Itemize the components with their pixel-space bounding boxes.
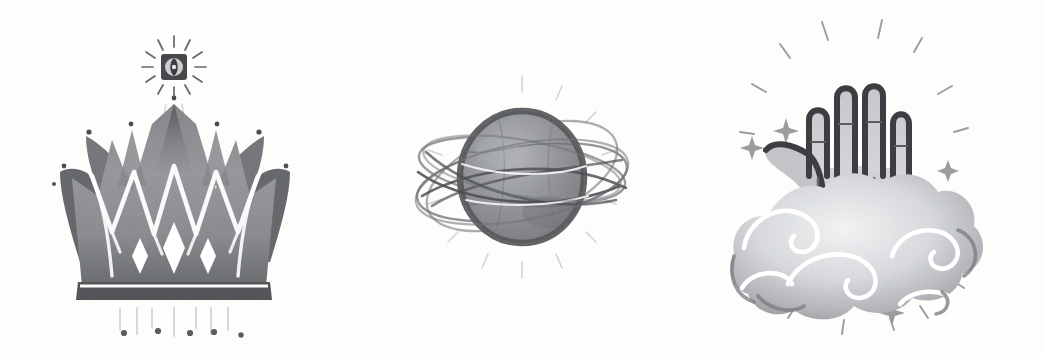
cloud-shape: [730, 173, 983, 320]
sparkle-2: [773, 118, 799, 144]
illustration-canvas: [0, 0, 1043, 354]
crown-bottom-dots: [121, 328, 244, 338]
panel-orbited-planet: [348, 0, 696, 354]
eye-glint: [172, 65, 176, 69]
planet-sphere: [460, 111, 584, 243]
crown-band: [76, 282, 272, 300]
sparkle-4: [937, 160, 959, 182]
sparkle-1: [740, 136, 764, 160]
radiant-eye-icon: [142, 36, 206, 98]
panel-radiant-crown: [0, 0, 348, 354]
panel-hand-in-clouds: [696, 0, 1043, 354]
